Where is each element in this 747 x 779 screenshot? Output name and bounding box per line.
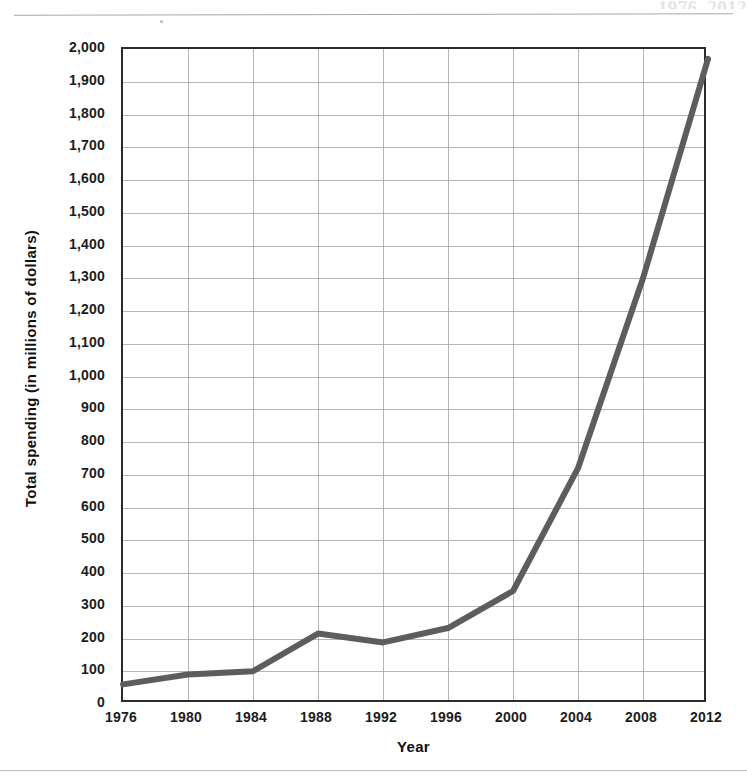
y-axis-title: Total spending (in millions of dollars) <box>22 39 39 699</box>
x-tick-label: 2012 <box>661 709 747 725</box>
data-series-line <box>123 49 708 704</box>
plot-area <box>121 47 706 702</box>
line-chart-figure: 01002003004005006007008009001,0001,1001,… <box>0 0 747 779</box>
x-axis-tick-labels: 1976198019841988199219962000200420082012 <box>121 709 706 735</box>
x-axis-title: Year <box>121 738 706 755</box>
y-axis-tick-labels: 01002003004005006007008009001,0001,1001,… <box>0 47 113 702</box>
